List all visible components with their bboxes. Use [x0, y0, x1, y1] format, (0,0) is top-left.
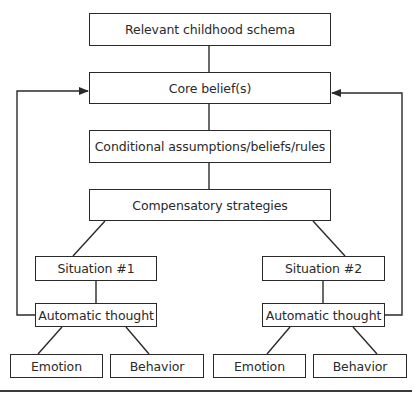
node-core-beliefs: Core belief(s) — [89, 72, 331, 104]
node-behavior-2: Behavior — [313, 354, 407, 378]
node-emotion-1: Emotion — [10, 354, 103, 378]
edge-thought1-emotion1 — [38, 327, 62, 354]
edge-compensatory-situation1 — [73, 221, 105, 256]
cognitive-conceptualization-diagram: Relevant childhood schema Core belief(s)… — [0, 0, 420, 393]
node-situation-1: Situation #1 — [35, 256, 157, 281]
feedback-arrow-left — [17, 91, 88, 315]
node-conditional-assumptions: Conditional assumptions/beliefs/rules — [89, 130, 331, 163]
node-automatic-thought-1: Automatic thought — [35, 303, 157, 327]
edge-thought1-behavior1 — [126, 327, 149, 354]
edge-thought2-behavior2 — [353, 327, 377, 354]
node-compensatory-strategies: Compensatory strategies — [89, 189, 331, 221]
node-situation-2: Situation #2 — [262, 256, 385, 281]
edge-thought2-emotion2 — [267, 327, 290, 354]
edge-compensatory-situation2 — [313, 221, 345, 256]
node-behavior-1: Behavior — [110, 354, 204, 378]
feedback-arrow-right — [332, 93, 402, 315]
node-relevant-childhood-schema: Relevant childhood schema — [89, 13, 331, 46]
bottom-rule-divider — [0, 390, 412, 392]
node-emotion-2: Emotion — [213, 354, 306, 378]
node-automatic-thought-2: Automatic thought — [262, 303, 385, 327]
